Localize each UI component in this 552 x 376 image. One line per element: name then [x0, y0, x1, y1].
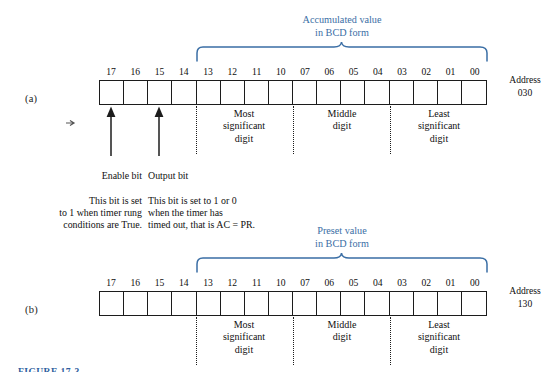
address-value-b: 130: [497, 298, 552, 311]
bit-label: 02: [414, 277, 438, 288]
bit-label: 13: [196, 277, 220, 288]
digit-group-line1: Most: [189, 319, 299, 331]
address-word-b: Address: [497, 285, 552, 298]
digit-group-line1: Least: [384, 108, 494, 120]
bit-label: 05: [342, 66, 366, 77]
bit-cell-10[interactable]: [269, 81, 293, 104]
bit-labels-a: 17 16 15 14 13 12 11 10 07 06 05 04 03 0…: [99, 66, 487, 77]
bit-cell-03[interactable]: [390, 292, 414, 315]
bit-label: 17: [99, 66, 123, 77]
bit-grid-a: [99, 80, 487, 105]
bit-cell-11[interactable]: [245, 292, 269, 315]
enable-bit-annotation: Enable bit This bit is set to 1 when tim…: [8, 158, 142, 244]
bit-label: 10: [269, 277, 293, 288]
figure-caption: FIGURE 17-3: [18, 367, 80, 372]
digit-group-line2: significant: [189, 331, 299, 343]
bit-cell-02[interactable]: [414, 81, 438, 104]
bit-label: 16: [123, 66, 147, 77]
accumulated-value-line2: in BCD form: [252, 27, 432, 40]
address-block-a: Address 030: [497, 74, 552, 99]
bit-cell-17[interactable]: [100, 292, 124, 315]
bit-label: 00: [463, 66, 487, 77]
digit-group-line3: digit: [189, 344, 299, 356]
bit-cell-13[interactable]: [197, 292, 221, 315]
digit-group-line2: significant: [189, 120, 299, 132]
bit-cell-04[interactable]: [365, 292, 389, 315]
bit-cell-13[interactable]: [197, 81, 221, 104]
bit-label: 15: [148, 277, 172, 288]
digit-group-line2: significant: [384, 120, 494, 132]
bit-cell-07[interactable]: [293, 81, 317, 104]
digit-group-line1: Middle: [287, 108, 397, 120]
bit-cell-05[interactable]: [341, 292, 365, 315]
address-word-a: Address: [497, 74, 552, 87]
digit-group-line2: digit: [287, 331, 397, 343]
bit-labels-b: 17 16 15 14 13 12 11 10 07 06 05 04 03 0…: [99, 277, 487, 288]
bit-label: 13: [196, 66, 220, 77]
digit-group-line1: Most: [189, 108, 299, 120]
bit-label: 07: [293, 277, 317, 288]
accumulated-value-brace: [196, 44, 488, 62]
bit-cell-15[interactable]: [148, 81, 172, 104]
bit-label: 07: [293, 66, 317, 77]
bit-cell-02[interactable]: [414, 292, 438, 315]
bit-label: 05: [342, 277, 366, 288]
digit-group-least-significant-b: Least significant digit: [384, 319, 494, 356]
bit-cell-01[interactable]: [438, 292, 462, 315]
bit-cell-16[interactable]: [124, 81, 148, 104]
bit-label: 06: [317, 277, 341, 288]
bit-label: 15: [148, 66, 172, 77]
enable-bit-arrow: [105, 106, 117, 156]
bit-label: 02: [414, 66, 438, 77]
bit-label: 12: [220, 277, 244, 288]
address-block-b: Address 130: [497, 285, 552, 310]
digit-group-most-significant-a: Most significant digit: [189, 108, 299, 145]
bit-cell-06[interactable]: [317, 81, 341, 104]
preset-value-brace: [196, 255, 488, 273]
digit-group-most-significant-b: Most significant digit: [189, 319, 299, 356]
bit-cell-05[interactable]: [341, 81, 365, 104]
digit-group-line3: digit: [384, 133, 494, 145]
bit-cell-04[interactable]: [365, 81, 389, 104]
panel-label-b: (b): [25, 304, 38, 315]
digit-group-line1: Least: [384, 319, 494, 331]
bit-cell-06[interactable]: [317, 292, 341, 315]
bit-label: 06: [317, 66, 341, 77]
bit-cell-14[interactable]: [172, 292, 196, 315]
bit-label: 16: [123, 277, 147, 288]
bit-label: 11: [245, 66, 269, 77]
accumulated-value-caption: Accumulated value in BCD form: [252, 14, 432, 39]
bit-cell-11[interactable]: [245, 81, 269, 104]
enable-bit-body: This bit is set to 1 when timer rung con…: [8, 195, 142, 232]
digit-group-line3: digit: [189, 133, 299, 145]
bit-cell-00[interactable]: [462, 292, 486, 315]
bit-label: 00: [463, 277, 487, 288]
enable-bit-title: Enable bit: [8, 170, 142, 182]
bit-cell-16[interactable]: [124, 292, 148, 315]
digit-group-middle-a: Middle digit: [287, 108, 397, 133]
bit-label: 12: [220, 66, 244, 77]
bit-label: 01: [439, 277, 463, 288]
bit-cell-03[interactable]: [390, 81, 414, 104]
output-bit-arrow: [153, 106, 165, 156]
bit-cell-15[interactable]: [148, 292, 172, 315]
bit-cell-17[interactable]: [100, 81, 124, 104]
bit-label: 04: [366, 66, 390, 77]
bit-cell-14[interactable]: [172, 81, 196, 104]
digit-group-line1: Middle: [287, 319, 397, 331]
bit-label: 11: [245, 277, 269, 288]
bit-label: 10: [269, 66, 293, 77]
bit-cell-12[interactable]: [221, 81, 245, 104]
bit-cell-00[interactable]: [462, 81, 486, 104]
digit-group-line2: significant: [384, 331, 494, 343]
bit-cell-01[interactable]: [438, 81, 462, 104]
panel-label-a: (a): [25, 93, 37, 104]
bit-cell-07[interactable]: [293, 292, 317, 315]
bit-label: 04: [366, 277, 390, 288]
digit-group-line3: digit: [384, 344, 494, 356]
output-bit-title: Output bit: [148, 170, 338, 182]
bit-label: 17: [99, 277, 123, 288]
bit-cell-12[interactable]: [221, 292, 245, 315]
bit-cell-10[interactable]: [269, 292, 293, 315]
bit-grid-b: [99, 291, 487, 316]
